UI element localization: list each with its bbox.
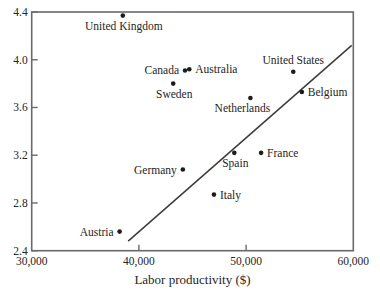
point-netherlands xyxy=(248,96,253,101)
point-label-united-states: United States xyxy=(262,54,324,66)
point-label-sweden: Sweden xyxy=(156,88,193,100)
y-tick-label-3.6: 3.6 xyxy=(13,101,28,113)
point-label-spain: Spain xyxy=(222,157,248,170)
x-tick-label-50-000: 50,000 xyxy=(230,255,262,268)
data-point-layer: United KingdomCanadaAustraliaSwedenUnite… xyxy=(80,13,348,237)
axis-tick-layer: 2.42.83.23.64.04.430,00040,00050,00060,0… xyxy=(13,6,369,268)
point-label-france: France xyxy=(267,147,298,159)
labor-productivity-scatter-chart: 2.42.83.23.64.04.430,00040,00050,00060,0… xyxy=(0,0,380,298)
point-austria xyxy=(117,229,122,234)
point-germany xyxy=(181,167,186,172)
y-tick-label-2.8: 2.8 xyxy=(13,197,28,209)
point-label-italy: Italy xyxy=(220,189,241,202)
point-label-canada: Canada xyxy=(145,64,179,76)
point-label-australia: Australia xyxy=(195,63,237,75)
x-tick-label-60-000: 60,000 xyxy=(337,255,369,268)
plot-frame-layer xyxy=(32,12,354,251)
x-tick-label-40-000: 40,000 xyxy=(123,255,155,268)
point-label-germany: Germany xyxy=(134,164,177,177)
point-sweden xyxy=(171,81,176,86)
point-france xyxy=(259,151,264,156)
point-label-austria: Austria xyxy=(80,226,114,238)
point-label-netherlands: Netherlands xyxy=(215,102,271,114)
point-label-united-kingdom: United Kingdom xyxy=(85,20,163,33)
point-united-states xyxy=(291,69,296,74)
point-australia xyxy=(187,67,192,72)
y-tick-label-4.0: 4.0 xyxy=(13,54,28,66)
plot-frame xyxy=(32,12,354,251)
y-tick-label-3.2: 3.2 xyxy=(13,149,28,161)
x-tick-label-30-000: 30,000 xyxy=(16,255,48,268)
x-axis-title: Labor productivity ($) xyxy=(134,272,250,287)
point-italy xyxy=(212,192,217,197)
point-label-belgium: Belgium xyxy=(308,86,348,99)
point-spain xyxy=(232,151,237,156)
y-tick-label-4.4: 4.4 xyxy=(13,6,28,18)
scatter-figure: 2.42.83.23.64.04.430,00040,00050,00060,0… xyxy=(0,0,380,298)
point-belgium xyxy=(300,90,305,95)
point-united-kingdom xyxy=(121,13,126,18)
point-canada xyxy=(183,68,188,73)
